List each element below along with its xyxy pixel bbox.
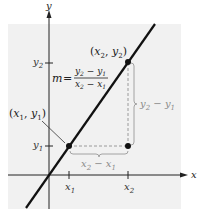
point-2-marker [125, 59, 131, 65]
slope-equals: = [63, 72, 72, 85]
x-axis-arrow-icon [180, 173, 188, 178]
point-1-marker [66, 143, 72, 149]
slope-diagram: y x x1 x2 y1 y2 (x1, y1) (x2, y2) m = y2… [0, 0, 207, 219]
corner-marker [125, 143, 131, 149]
x-axis-label: x [191, 169, 197, 180]
slope-numerator: y2 − y1 [74, 66, 106, 77]
y-axis-arrow-icon [47, 10, 52, 18]
y-axis-label: y [45, 0, 52, 11]
slope-lhs: m [52, 72, 62, 85]
slope-denominator: x2 − x1 [75, 79, 106, 90]
